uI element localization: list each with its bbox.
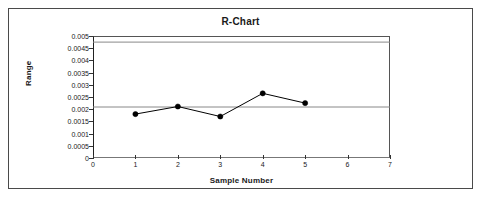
y-tick-mark — [89, 60, 93, 61]
y-tick-label: 0.0005 — [68, 142, 89, 149]
y-tick-label: 0.004 — [71, 57, 89, 64]
y-tick-mark — [89, 109, 93, 110]
y-axis-title: Range — [24, 61, 33, 86]
y-tick-mark — [89, 73, 93, 74]
y-tick-label: 0.0025 — [68, 94, 89, 101]
y-tick-mark — [89, 146, 93, 147]
x-tick-mark — [390, 155, 391, 159]
x-axis-title: Sample Number — [93, 176, 390, 185]
y-tick-label: 0.0015 — [68, 118, 89, 125]
data-point — [303, 101, 308, 106]
y-tick-mark — [89, 134, 93, 135]
y-tick-label: 0.0045 — [68, 45, 89, 52]
x-tick-mark — [135, 155, 136, 159]
y-tick-label: 0.005 — [71, 33, 89, 40]
chart-title: R-Chart — [0, 16, 481, 27]
y-tick-label: 0.002 — [71, 106, 89, 113]
x-tick-label: 1 — [133, 161, 137, 168]
y-tick-mark — [89, 48, 93, 49]
x-tick-mark — [348, 155, 349, 159]
data-point — [175, 104, 180, 109]
x-tick-label: 2 — [176, 161, 180, 168]
x-tick-mark — [220, 155, 221, 159]
y-tick-mark — [89, 97, 93, 98]
x-axis-tick-labels: 01234567 — [93, 161, 390, 173]
y-axis-tick-labels: 00.00050.0010.00150.0020.00250.0030.0035… — [46, 36, 89, 158]
data-point — [260, 91, 265, 96]
x-tick-label: 6 — [346, 161, 350, 168]
y-tick-mark — [89, 121, 93, 122]
y-tick-label: 0.001 — [71, 130, 89, 137]
series-line-range — [135, 93, 305, 116]
data-point — [218, 114, 223, 119]
x-tick-label: 0 — [91, 161, 95, 168]
x-tick-mark — [305, 155, 306, 159]
x-tick-label: 7 — [388, 161, 392, 168]
y-tick-label: 0.003 — [71, 81, 89, 88]
y-tick-mark — [89, 36, 93, 37]
x-tick-label: 4 — [261, 161, 265, 168]
x-tick-mark — [178, 155, 179, 159]
y-tick-label: 0.0035 — [68, 69, 89, 76]
chart-plot-svg — [93, 36, 390, 158]
x-tick-mark — [263, 155, 264, 159]
x-tick-label: 3 — [218, 161, 222, 168]
data-point — [133, 111, 138, 116]
y-tick-mark — [89, 85, 93, 86]
chart-screenshot: R-Chart Range 00.00050.0010.00150.0020.0… — [0, 0, 481, 198]
x-tick-label: 5 — [303, 161, 307, 168]
x-tick-mark — [93, 155, 94, 159]
